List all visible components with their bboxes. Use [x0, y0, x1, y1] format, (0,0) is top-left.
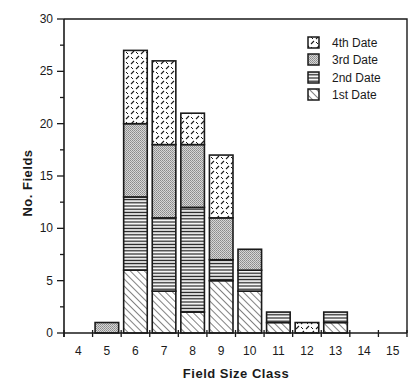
bar-segment-13-2nd-date [324, 312, 348, 322]
legend-label: 2nd Date [332, 71, 381, 85]
legend-item-2nd-date: 2nd Date [308, 71, 381, 85]
legend-label: 4th Date [332, 36, 378, 50]
bar-segment-12-4th-date [295, 323, 319, 333]
bar-segment-8-3rd-date [181, 145, 205, 208]
bar-segment-5-3rd-date [95, 323, 119, 333]
legend: 4th Date3rd Date2nd Date1st Date [308, 36, 381, 102]
bar-segment-10-1st-date [238, 291, 262, 333]
y-tick-label: 15 [40, 169, 54, 183]
x-tick-label: 15 [386, 344, 400, 358]
bar-segment-6-3rd-date [124, 124, 148, 197]
bar-segment-8-1st-date [181, 312, 205, 333]
bar-segment-7-2nd-date [152, 218, 176, 291]
legend-swatch-icon [308, 72, 319, 83]
legend-swatch-icon [308, 37, 319, 48]
bar-segment-8-2nd-date [181, 207, 205, 312]
y-tick-label: 5 [46, 274, 53, 288]
bar-segment-9-3rd-date [209, 218, 233, 260]
y-axis: 051015202530 [40, 12, 64, 340]
legend-item-4th-date: 4th Date [308, 36, 378, 50]
x-tick-label: 12 [300, 344, 314, 358]
legend-item-3rd-date: 3rd Date [308, 53, 378, 67]
x-axis: 456789101112131415 [64, 330, 407, 358]
y-tick-label: 30 [40, 12, 54, 26]
bar-segment-9-2nd-date [209, 260, 233, 281]
x-tick-label: 10 [243, 344, 257, 358]
x-tick-label: 11 [272, 344, 285, 358]
bar-segment-7-4th-date [152, 61, 176, 145]
stacked-bar-chart: 051015202530 456789101112131415 4th Date… [0, 0, 419, 391]
x-tick-label: 7 [161, 344, 168, 358]
bar-segment-10-2nd-date [238, 270, 262, 291]
bar-segment-6-2nd-date [124, 197, 148, 270]
legend-swatch-icon [308, 89, 319, 100]
x-tick-label: 13 [329, 344, 343, 358]
legend-label: 3rd Date [332, 53, 378, 67]
y-tick-label: 10 [40, 221, 54, 235]
x-axis-title: Field Size Class [183, 366, 289, 381]
x-tick-label: 8 [189, 344, 196, 358]
bar-segment-6-1st-date [124, 270, 148, 333]
legend-item-1st-date: 1st Date [308, 88, 377, 102]
bar-segment-8-4th-date [181, 113, 205, 144]
bar-segment-13-1st-date [324, 323, 348, 333]
x-tick-label: 4 [75, 344, 82, 358]
bar-segment-7-3rd-date [152, 145, 176, 218]
x-tick-label: 6 [132, 344, 139, 358]
legend-swatch-icon [308, 54, 319, 65]
y-tick-label: 0 [46, 326, 53, 340]
bar-segment-9-4th-date [209, 155, 233, 218]
y-tick-label: 20 [40, 117, 54, 131]
y-tick-label: 25 [40, 64, 54, 78]
bar-segment-11-1st-date [267, 323, 291, 333]
bar-segment-6-4th-date [124, 50, 148, 123]
x-tick-label: 9 [218, 344, 225, 358]
y-axis-title: No. Fields [20, 149, 35, 216]
bar-segment-9-1st-date [209, 281, 233, 333]
bar-segment-11-2nd-date [267, 312, 291, 322]
legend-label: 1st Date [332, 88, 377, 102]
bar-segment-7-1st-date [152, 291, 176, 333]
x-tick-label: 14 [357, 344, 371, 358]
x-tick-label: 5 [104, 344, 111, 358]
bar-segment-10-3rd-date [238, 249, 262, 270]
